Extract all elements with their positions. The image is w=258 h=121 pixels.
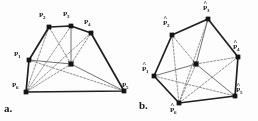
vertex-label-b-P4: P4 <box>233 44 240 51</box>
spoke-center-P3 <box>196 19 208 64</box>
vertex-node-b-P6[interactable] <box>177 101 181 105</box>
vertex-label-a-P1: P1 <box>14 51 21 58</box>
polygon-outline-a <box>26 26 124 92</box>
vertex-label-a-P5: P5 <box>122 82 129 89</box>
spoke-center-P1 <box>29 60 71 64</box>
vertex-node-b-P2[interactable] <box>170 33 174 37</box>
spoke-center-P4 <box>196 57 238 64</box>
vertex-label-b-P1: P1 <box>142 66 149 73</box>
panel-letter-a: a. <box>4 103 12 114</box>
panel-letter-b: b. <box>139 100 148 111</box>
center-node-b[interactable] <box>194 62 199 67</box>
vertex-node-a-P3[interactable] <box>69 24 73 28</box>
vertex-label-a-P4: P4 <box>84 19 91 26</box>
vertex-node-a-P6[interactable] <box>24 90 28 94</box>
vertex-node-a-P1[interactable] <box>27 58 31 62</box>
vertex-label-a-P6: P6 <box>12 82 19 89</box>
vertex-label-a-P3: P3 <box>63 11 70 18</box>
panel-a <box>24 24 126 94</box>
vertex-label-b-P3: P3 <box>203 5 210 12</box>
vertex-node-b-P4[interactable] <box>236 55 240 59</box>
vertex-node-b-P5[interactable] <box>233 94 237 98</box>
spoke-center-P6 <box>179 64 196 103</box>
spoke-center-P2 <box>49 27 71 64</box>
vertex-label-a-P2: P2 <box>39 12 46 19</box>
figure-root: a.P1P2P3P4P5P6b.P1P2P3P4P5P6 <box>0 0 258 121</box>
spoke-center-P6 <box>26 64 71 92</box>
vertex-label-b-P2: P2 <box>163 20 170 27</box>
dashed-chord-P3-P6 <box>26 26 71 92</box>
vertex-label-b-P5: P5 <box>236 87 243 94</box>
vertex-node-a-P4[interactable] <box>89 31 93 35</box>
polygon-outline-b <box>154 19 238 103</box>
vertex-node-b-P3[interactable] <box>206 17 210 21</box>
center-node-a[interactable] <box>69 62 74 67</box>
vertex-node-b-P1[interactable] <box>152 74 156 78</box>
panel-b <box>152 17 240 105</box>
vertex-node-a-P2[interactable] <box>47 25 51 29</box>
spoke-center-P2 <box>172 35 196 64</box>
vertex-label-b-P6: P6 <box>170 107 177 114</box>
